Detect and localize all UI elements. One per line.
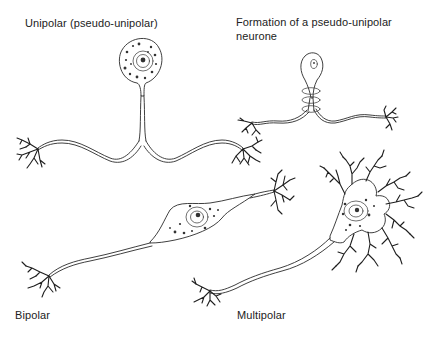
multipolar-neurone <box>192 150 422 306</box>
multipolar-axon <box>210 238 330 291</box>
bipolar-dendrites-left <box>22 262 60 297</box>
bipolar-neurone <box>22 170 295 297</box>
neurone-diagram <box>0 0 427 337</box>
unipolar-stem-right <box>144 96 146 141</box>
bipolar-cell-body <box>150 194 255 243</box>
formation-dendrites-left <box>238 118 260 135</box>
unipolar-central-process <box>146 140 243 159</box>
formation-neurone <box>238 53 398 135</box>
unipolar-stem-left <box>139 96 141 141</box>
formation-right-process <box>314 110 386 123</box>
formation-dendrites-right <box>384 106 398 130</box>
unipolar-neurone <box>17 38 262 168</box>
unipolar-dendrites-right <box>232 137 262 165</box>
bipolar-nucleolus <box>196 213 201 218</box>
formation-cell-body <box>301 53 323 98</box>
multipolar-axon-terminal <box>192 278 221 306</box>
formation-left-process <box>252 110 307 123</box>
unipolar-nucleolus <box>141 58 146 63</box>
unipolar-peripheral-process <box>38 140 139 159</box>
bipolar-central-process <box>255 190 274 194</box>
bipolar-dendrites-right <box>271 170 295 214</box>
multipolar-nucleolus <box>355 208 359 212</box>
unipolar-dendrites-left <box>17 138 45 168</box>
multipolar-cell-body <box>330 179 390 243</box>
